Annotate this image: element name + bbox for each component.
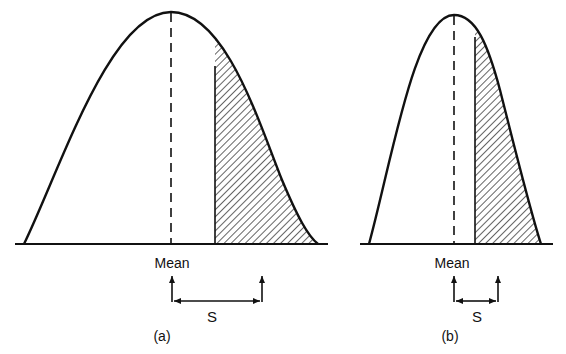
- caption-a: (a): [153, 328, 170, 344]
- s-label-a: S: [207, 308, 217, 325]
- panel-b: Mean S (b): [360, 15, 553, 344]
- caption-b: (b): [441, 328, 458, 344]
- panel-a: Mean S (a): [15, 12, 328, 344]
- diagram-canvas: Mean S (a) Mean S (b): [0, 0, 566, 354]
- mean-label-b: Mean: [434, 255, 469, 271]
- s-label-b: S: [472, 308, 482, 325]
- mean-label-a: Mean: [154, 255, 189, 271]
- shaded-tail-region-b: [369, 15, 541, 244]
